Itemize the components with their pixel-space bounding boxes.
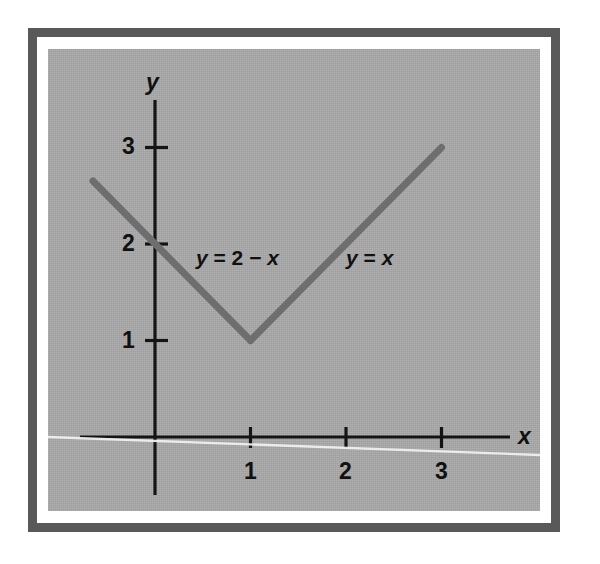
x-axis-label: x — [518, 425, 531, 448]
annotation-left-eq: = 2 — [208, 246, 249, 269]
annotation-right-eq: = — [358, 246, 382, 269]
annotation-left-lhs: y — [196, 246, 208, 269]
x-tick-label-3: 3 — [435, 460, 448, 483]
plot-area: y x 3 2 1 1 2 3 y = 2 − x y = x — [48, 49, 540, 511]
x-tick-label-1: 1 — [244, 460, 257, 483]
annotation-right-lhs: y — [346, 246, 358, 269]
plot-svg-canvas — [48, 49, 540, 511]
line-segment-right-branch — [251, 148, 442, 341]
annotation-right-rhs: x — [382, 246, 394, 269]
scan-crease-artifact — [48, 437, 540, 455]
y-tick-label-1: 1 — [122, 329, 135, 352]
annotation-left-minus: − — [249, 246, 261, 269]
y-axis-label: y — [146, 71, 159, 94]
y-tick-label-3: 3 — [122, 135, 135, 158]
annotation-left-branch: y = 2 − x — [196, 247, 279, 268]
x-tick-label-2: 2 — [339, 460, 352, 483]
y-tick-label-2: 2 — [122, 232, 135, 255]
annotation-right-branch: y = x — [346, 247, 393, 268]
figure-root: y x 3 2 1 1 2 3 y = 2 − x y = x — [0, 0, 600, 564]
annotation-left-rhs: x — [261, 246, 279, 269]
